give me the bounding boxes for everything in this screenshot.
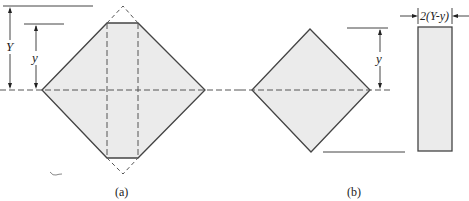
strip-rectangle xyxy=(418,27,452,151)
arrowhead-icon xyxy=(34,83,38,89)
label-width: 2(Y-y) xyxy=(420,9,449,23)
label-y-b: y xyxy=(374,51,382,66)
arrowhead-icon xyxy=(378,29,382,35)
label-y: y xyxy=(30,50,38,65)
arrowhead-icon xyxy=(378,83,382,89)
arrowhead-icon xyxy=(8,7,12,13)
diagram-canvas: Y y (a) y 2(Y-y) (b) xyxy=(0,0,469,201)
removed-top-corner xyxy=(107,6,138,23)
panel-a: Y y (a) xyxy=(0,6,240,199)
stray-mark xyxy=(50,172,62,175)
arrowhead-icon xyxy=(452,14,458,18)
arrowhead-icon xyxy=(8,83,12,89)
arrowhead-icon xyxy=(34,25,38,31)
arrowhead-icon xyxy=(412,14,418,18)
panel-b: y 2(Y-y) (b) xyxy=(240,8,469,199)
caption-a: (a) xyxy=(115,185,128,199)
removed-bottom-corner xyxy=(107,158,138,174)
caption-b: (b) xyxy=(347,185,361,199)
